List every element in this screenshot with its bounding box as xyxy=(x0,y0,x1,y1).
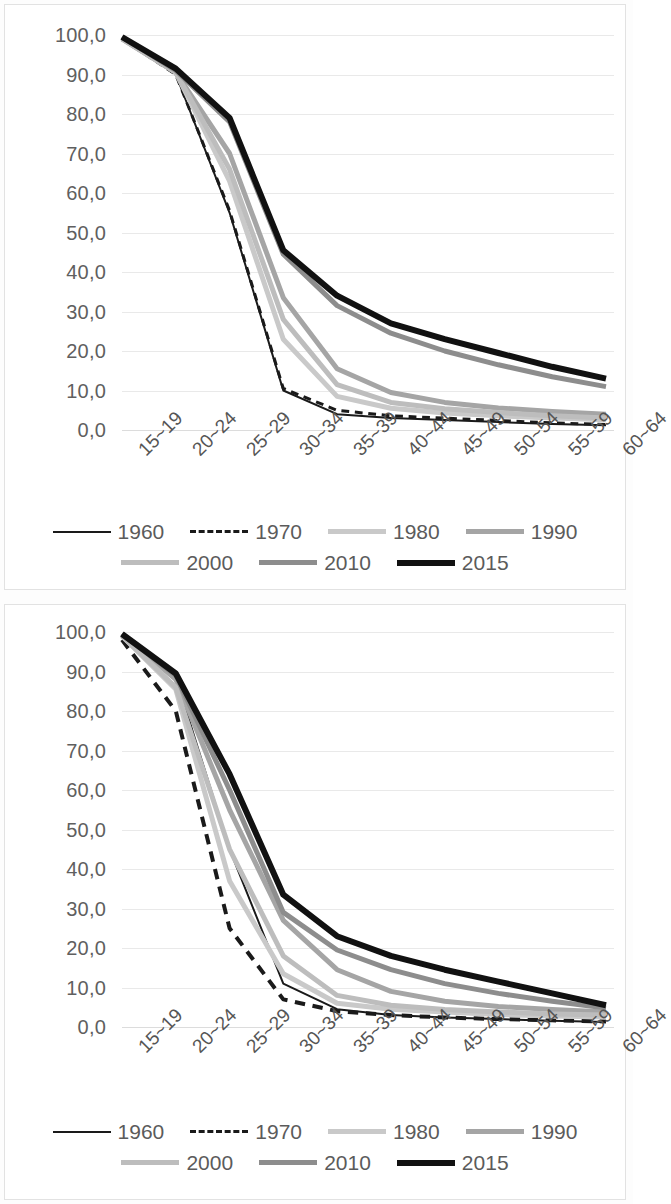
legend-swatch-2015 xyxy=(397,560,455,566)
legend-item-2010[interactable]: 2010 xyxy=(259,1152,371,1173)
x-axis-tick-label: 15~19 xyxy=(134,445,150,461)
legend-label-2015: 2015 xyxy=(462,1152,509,1173)
legend-swatch-2000 xyxy=(121,560,179,565)
legend-label-2010: 2010 xyxy=(324,1152,371,1173)
x-axis-tick-label: 50~54 xyxy=(510,1042,526,1058)
legend-swatch-1960 xyxy=(53,531,111,533)
legend-item-2015[interactable]: 2015 xyxy=(397,1152,509,1173)
legend-swatch-1990 xyxy=(466,529,524,534)
legend-label-1970: 1970 xyxy=(255,521,302,542)
legend-label-1980: 1980 xyxy=(393,1121,440,1142)
legend-swatch-1980 xyxy=(328,529,386,534)
legend-swatch-1970 xyxy=(190,530,248,533)
legend-item-2000[interactable]: 2000 xyxy=(121,552,233,573)
x-axis-tick-label: 25~29 xyxy=(242,1042,258,1058)
legend-item-2010[interactable]: 2010 xyxy=(259,552,371,573)
x-axis-tick-label: 60~64 xyxy=(618,445,634,461)
legend-swatch-2015 xyxy=(397,1160,455,1166)
legend-item-2015[interactable]: 2015 xyxy=(397,552,509,573)
legend-swatch-2010 xyxy=(259,1160,317,1165)
x-axis-tick-label: 40~44 xyxy=(403,1042,419,1058)
legend-row: 200020102015 xyxy=(121,1152,508,1173)
x-axis-tick-label: 30~34 xyxy=(295,1042,311,1058)
series-line-2015 xyxy=(122,37,606,379)
legend-label-1990: 1990 xyxy=(531,1121,578,1142)
x-axis-tick-label: 55~59 xyxy=(564,1042,580,1058)
series-lines-2 xyxy=(5,605,627,1037)
legend-label-1970: 1970 xyxy=(255,1121,302,1142)
legend-swatch-2000 xyxy=(121,1160,179,1165)
legend-item-1990[interactable]: 1990 xyxy=(466,1121,578,1142)
series-line-1990 xyxy=(122,39,606,414)
legend-row: 1960197019801990 xyxy=(53,521,578,542)
chart-panel-1: 100,090,080,070,060,050,040,030,020,010,… xyxy=(4,4,626,590)
x-axis-tick-label: 50~54 xyxy=(510,445,526,461)
series-line-2015 xyxy=(122,634,606,1005)
legend-item-1970[interactable]: 1970 xyxy=(190,521,302,542)
legend-swatch-1960 xyxy=(53,1131,111,1133)
legend-item-2000[interactable]: 2000 xyxy=(121,1152,233,1173)
series-line-1970 xyxy=(122,640,606,1022)
legend-label-2010: 2010 xyxy=(324,552,371,573)
x-axis-tick-label: 35~39 xyxy=(349,1042,365,1058)
legend-item-1980[interactable]: 1980 xyxy=(328,1121,440,1142)
legend-label-1960: 1960 xyxy=(118,521,165,542)
legend-item-1990[interactable]: 1990 xyxy=(466,521,578,542)
x-axis-tick-label: 25~29 xyxy=(242,445,258,461)
x-axis-tick-label: 20~24 xyxy=(188,445,204,461)
x-axis-tick-label: 45~49 xyxy=(457,445,473,461)
legend-2: 1960197019801990200020102015 xyxy=(5,1121,625,1173)
x-axis-tick-label: 40~44 xyxy=(403,445,419,461)
legend-item-1960[interactable]: 1960 xyxy=(53,1121,165,1142)
legend-swatch-1990 xyxy=(466,1129,524,1134)
x-axis-tick-label: 45~49 xyxy=(457,1042,473,1058)
x-axis-tick-label: 15~19 xyxy=(134,1042,150,1058)
legend-label-1990: 1990 xyxy=(531,521,578,542)
legend-label-2000: 2000 xyxy=(186,552,233,573)
series-line-2010 xyxy=(122,634,606,1008)
legend-item-1980[interactable]: 1980 xyxy=(328,521,440,542)
x-axis-tick-label: 55~59 xyxy=(564,445,580,461)
chart-panel-2: 100,090,080,070,060,050,040,030,020,010,… xyxy=(4,604,626,1200)
series-lines-1 xyxy=(5,5,627,440)
legend-swatch-2010 xyxy=(259,560,317,565)
legend-item-1970[interactable]: 1970 xyxy=(190,1121,302,1142)
series-line-1990 xyxy=(122,634,606,1012)
legend-1: 1960197019801990200020102015 xyxy=(5,521,625,573)
x-axis-tick-label: 30~34 xyxy=(295,445,311,461)
x-axis-tick-label: 20~24 xyxy=(188,1042,204,1058)
legend-item-1960[interactable]: 1960 xyxy=(53,521,165,542)
legend-swatch-1980 xyxy=(328,1129,386,1134)
legend-label-1960: 1960 xyxy=(118,1121,165,1142)
legend-row: 200020102015 xyxy=(121,552,508,573)
x-axis-tick-label: 60~64 xyxy=(618,1042,634,1058)
x-axis-tick-label: 35~39 xyxy=(349,445,365,461)
legend-swatch-1970 xyxy=(190,1130,248,1133)
legend-row: 1960197019801990 xyxy=(53,1121,578,1142)
legend-label-2000: 2000 xyxy=(186,1152,233,1173)
legend-label-1980: 1980 xyxy=(393,521,440,542)
legend-label-2015: 2015 xyxy=(462,552,509,573)
series-line-1960 xyxy=(122,634,606,1022)
